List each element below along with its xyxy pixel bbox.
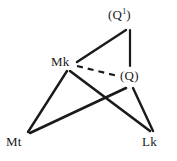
graph-diagram: (Q1) Mk (Q) Mt Lk	[0, 0, 177, 161]
edge-mk-mt	[28, 71, 67, 132]
node-label-q1-prefix: (Q	[108, 7, 122, 22]
edge-mk-q	[77, 66, 118, 76]
node-label-mt-text: Mt	[6, 134, 22, 149]
node-label-q-prefix: (Q	[120, 68, 134, 83]
edge-mk-q1	[77, 30, 126, 62]
node-label-q1: (Q1)	[108, 8, 131, 21]
node-label-lk: Lk	[142, 135, 157, 148]
node-label-mk: Mk	[51, 55, 69, 68]
node-label-mt: Mt	[6, 135, 22, 148]
node-label-q1-suffix: )	[126, 7, 131, 22]
node-label-lk-text: Lk	[142, 134, 157, 149]
edge-mt-q	[30, 88, 126, 133]
node-label-q-suffix: )	[134, 68, 139, 83]
node-label-mk-text: Mk	[51, 54, 69, 69]
node-label-q: (Q)	[120, 69, 139, 82]
